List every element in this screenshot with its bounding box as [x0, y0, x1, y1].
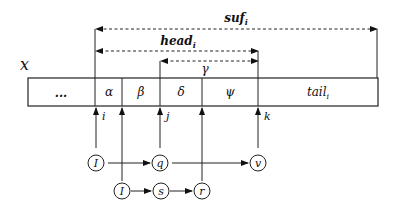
pointer-j-label: j: [163, 110, 170, 123]
pointer-i-label: i: [102, 110, 106, 123]
node-v: v: [255, 157, 262, 170]
cell-psi: ψ: [225, 85, 235, 99]
pointer-k-label: k: [264, 110, 271, 123]
node-I-2: I: [119, 185, 125, 198]
cell-beta: β: [137, 85, 145, 99]
string-label-x: x: [20, 55, 29, 74]
node-s: s: [158, 185, 164, 198]
node-r: r: [199, 185, 205, 198]
cell-delta: δ: [177, 85, 184, 99]
pointer-arrows: [96, 108, 258, 181]
node-q: q: [156, 157, 163, 170]
cell-tail: taili: [307, 85, 330, 101]
span-suf: [95, 29, 377, 78]
suffix-tree-diagram: x ... α β δ ψ taili sufi headi γ: [0, 0, 397, 219]
span-gamma-label: γ: [201, 62, 209, 76]
cell-ellipsis: ...: [55, 86, 68, 100]
span-suf-label: sufi: [224, 11, 248, 27]
span-gamma: [160, 61, 258, 78]
node-row-1: [88, 155, 266, 171]
cell-alpha: α: [105, 85, 113, 99]
span-head-label: headi: [160, 34, 196, 50]
span-head: [96, 51, 258, 78]
node-I-1: I: [93, 157, 99, 170]
